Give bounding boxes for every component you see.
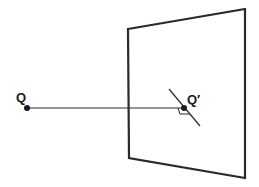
label-q-prime: Q′ (187, 92, 200, 107)
label-q: Q (16, 90, 26, 105)
diagram-canvas: Q Q′ (0, 0, 259, 187)
point-q (24, 105, 30, 111)
